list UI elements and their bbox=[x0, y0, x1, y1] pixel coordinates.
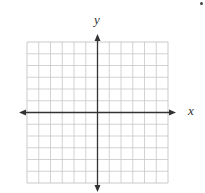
up-arrow-icon bbox=[95, 34, 101, 41]
down-arrow-icon bbox=[95, 185, 101, 192]
y-axis-label: y bbox=[94, 13, 100, 26]
coordinate-plane: y x bbox=[0, 0, 205, 193]
x-axis-label: x bbox=[188, 104, 194, 117]
axes bbox=[19, 34, 176, 192]
corner-dot-mark bbox=[200, 2, 203, 5]
left-arrow-icon bbox=[19, 110, 26, 116]
grid-svg bbox=[0, 0, 205, 193]
right-arrow-icon bbox=[169, 110, 176, 116]
